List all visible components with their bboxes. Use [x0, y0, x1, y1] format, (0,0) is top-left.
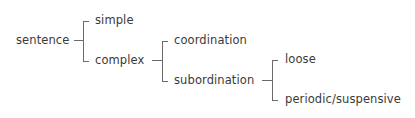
bracket-tick-top — [83, 21, 89, 22]
node-complex: complex — [95, 53, 144, 67]
node-subordination: subordination — [174, 73, 254, 87]
bracket-stub — [152, 60, 162, 61]
bracket-stub — [262, 80, 272, 81]
bracket-tick-top — [272, 60, 278, 61]
bracket-vertical — [83, 21, 84, 62]
node-sentence: sentence — [16, 33, 69, 47]
bracket-stub — [74, 40, 83, 41]
bracket-vertical — [272, 60, 273, 101]
node-simple: simple — [95, 13, 134, 27]
bracket-vertical — [162, 41, 163, 82]
node-periodic-suspensive: periodic/suspensive — [285, 92, 401, 106]
bracket-tick-top — [162, 41, 168, 42]
node-coordination: coordination — [174, 33, 247, 47]
bracket-tick-bottom — [83, 61, 89, 62]
bracket-tick-bottom — [162, 81, 168, 82]
node-loose: loose — [285, 52, 316, 66]
bracket-tick-bottom — [272, 100, 278, 101]
